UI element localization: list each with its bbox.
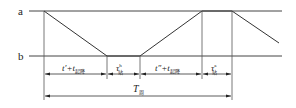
level-a-label: a [18,5,23,17]
interval-4-label: τa站 [211,63,217,76]
interval-2-label: τh站 [116,63,123,76]
trajectory-line [44,11,279,56]
level-b-label: b [18,50,24,62]
interval-3-label: t″+t起降 [155,63,180,75]
interval-1-label: t′+t起降 [62,63,85,75]
timing-diagram: a b t′+t起降 τh站 t″+t起降 τa站 T周 [0,0,296,108]
period-label: T周 [133,83,144,96]
